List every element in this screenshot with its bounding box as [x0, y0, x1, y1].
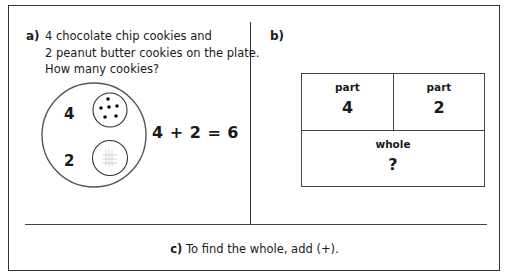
section-c-label: c)	[170, 242, 182, 256]
part-cell-right: part 2	[394, 74, 484, 131]
part-header-left: part	[302, 81, 393, 93]
peanut-count-label: 2	[64, 152, 74, 170]
part-value-left: 4	[302, 98, 393, 117]
section-b-label: b)	[270, 29, 284, 43]
whole-cell: whole ?	[302, 131, 484, 186]
addition-equation: 4 + 2 = 6	[152, 123, 239, 142]
whole-header: whole	[302, 138, 484, 150]
chocolate-chip-cookie-icon	[93, 93, 127, 127]
section-c: c) To find the whole, add (+).	[0, 242, 509, 256]
part-whole-table: part 4 part 2 whole ?	[301, 73, 485, 187]
part-cell-left: part 4	[302, 74, 394, 131]
plate-icon	[42, 83, 146, 187]
peanut-butter-cookie-icon	[93, 141, 128, 176]
whole-value: ?	[302, 155, 484, 174]
part-value-right: 2	[394, 98, 484, 117]
part-header-right: part	[394, 81, 484, 93]
section-c-text: To find the whole, add (+).	[186, 242, 339, 256]
chocolate-count-label: 4	[64, 105, 74, 123]
